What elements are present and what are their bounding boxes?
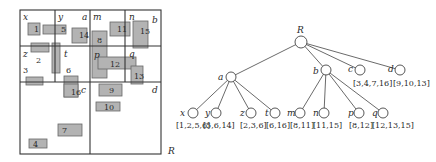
node-label-q: q bbox=[372, 108, 378, 118]
tree-node-c bbox=[355, 65, 365, 75]
region-label-y: y bbox=[57, 12, 64, 22]
data-rect-t-bar bbox=[52, 43, 60, 73]
tree-node-t bbox=[270, 108, 280, 118]
tree-node-y bbox=[211, 108, 221, 118]
tree-node-z bbox=[246, 108, 256, 118]
region-label-d: d bbox=[152, 85, 158, 95]
node-set-n: [11,15] bbox=[313, 121, 342, 130]
region-label-n: n bbox=[129, 12, 135, 22]
rect-label-11: 11 bbox=[117, 25, 127, 34]
edge-a-x bbox=[193, 77, 231, 113]
node-label-n: n bbox=[313, 108, 319, 118]
node-set-q: [12,13,15] bbox=[372, 121, 414, 130]
node-label-x: x bbox=[180, 108, 185, 118]
node-set-m: [8,11] bbox=[290, 121, 314, 130]
region-label-q: q bbox=[129, 49, 135, 59]
data-rect-2 bbox=[31, 43, 49, 52]
region-label-a: a bbox=[82, 12, 87, 22]
tree-node-b bbox=[321, 65, 331, 75]
node-set-d: [9,10,13] bbox=[393, 79, 430, 88]
tree-node-q bbox=[378, 108, 388, 118]
edge-a-y bbox=[216, 77, 231, 113]
edge-R-a bbox=[231, 42, 301, 77]
tree-edges bbox=[193, 42, 400, 113]
rect-label-6: 6 bbox=[66, 66, 71, 75]
rect-label-14: 14 bbox=[79, 31, 89, 40]
region-label-R: R bbox=[167, 146, 175, 156]
node-label-R: R bbox=[296, 25, 304, 35]
rect-label-13: 13 bbox=[134, 72, 144, 81]
node-label-y: y bbox=[204, 108, 211, 118]
region-label-x: x bbox=[23, 12, 28, 22]
rect-label-16: 16 bbox=[71, 88, 81, 97]
tree-node-m bbox=[295, 108, 305, 118]
rect-label-15: 15 bbox=[140, 27, 150, 36]
rect-label-5: 5 bbox=[61, 25, 66, 34]
tree-node-a bbox=[226, 72, 236, 82]
region-label-t: t bbox=[64, 49, 68, 59]
data-rectangles: 15142361611158121391074 bbox=[23, 21, 150, 149]
rect-label-9: 9 bbox=[109, 86, 114, 95]
rect-label-1: 1 bbox=[34, 25, 39, 34]
rect-label-3: 3 bbox=[23, 66, 28, 75]
node-label-a: a bbox=[218, 72, 223, 82]
tree-node-p bbox=[354, 108, 364, 118]
node-set-y: [5,6,14] bbox=[203, 121, 235, 130]
r-tree-diagram: 15142361611158121391074 xyamnbztpqcdR Ra… bbox=[0, 0, 436, 162]
region-label-m: m bbox=[93, 12, 102, 22]
edge-b-m bbox=[300, 70, 326, 113]
tree-node-d bbox=[395, 65, 405, 75]
region-label-c: c bbox=[81, 85, 86, 95]
data-rect-3 bbox=[26, 77, 43, 85]
tree-nodes: Rabc[3,4,7,16]d[9,10,13]x[1,2,5,6]y[5,6,… bbox=[176, 25, 430, 130]
node-set-p: [8,12] bbox=[349, 121, 373, 130]
node-label-p: p bbox=[348, 108, 354, 118]
tree-node-n bbox=[319, 108, 329, 118]
region-label-b: b bbox=[152, 15, 158, 25]
tree-node-x bbox=[188, 108, 198, 118]
region-label-p: p bbox=[94, 50, 100, 60]
node-label-c: c bbox=[348, 64, 353, 74]
rect-label-7: 7 bbox=[62, 126, 67, 135]
node-set-t: [6,16] bbox=[266, 121, 290, 130]
node-label-m: m bbox=[287, 108, 296, 118]
rect-label-4: 4 bbox=[33, 140, 38, 149]
rect-label-2: 2 bbox=[36, 56, 41, 65]
rect-label-12: 12 bbox=[110, 60, 120, 69]
rect-label-10: 10 bbox=[104, 103, 114, 112]
edge-b-n bbox=[324, 70, 326, 113]
node-set-c: [3,4,7,16] bbox=[353, 79, 392, 88]
node-set-z: [2,3,6] bbox=[240, 121, 267, 130]
rect-label-8: 8 bbox=[97, 36, 102, 45]
node-label-z: z bbox=[239, 108, 245, 118]
region-label-z: z bbox=[22, 49, 28, 59]
tree-node-R bbox=[295, 36, 307, 48]
node-label-d: d bbox=[388, 64, 394, 74]
node-label-t: t bbox=[265, 108, 269, 118]
node-label-b: b bbox=[313, 66, 319, 76]
